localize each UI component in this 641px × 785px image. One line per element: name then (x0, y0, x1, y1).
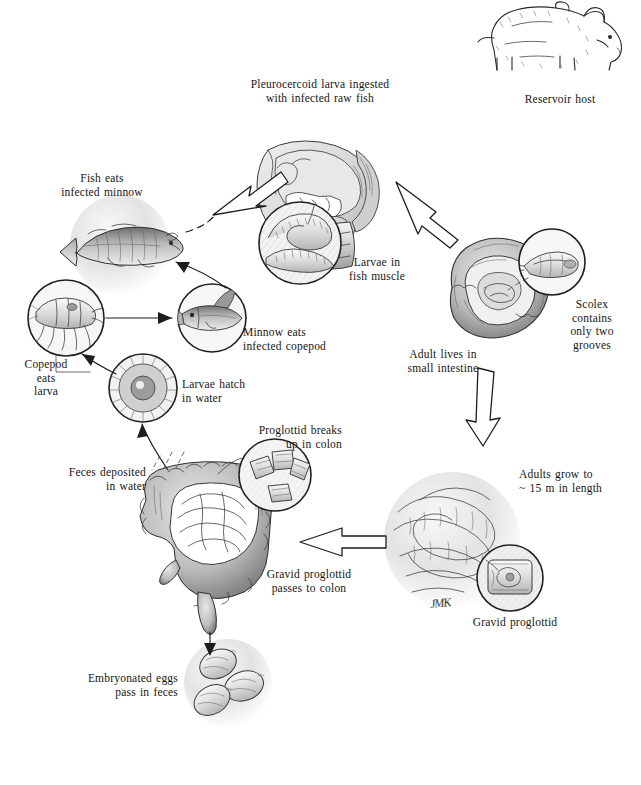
artist-signature: JMK (429, 595, 451, 612)
minnow-inset (166, 284, 246, 352)
label-larvae-fish-muscle: Larvae in fish muscle (322, 256, 432, 283)
life-cycle-diagram: Pleurocercoid larva ingested with infect… (0, 0, 641, 785)
gravid-proglottid-inset (477, 545, 543, 611)
label-gravid-proglottid: Gravid proglottid (452, 616, 578, 630)
arrow-intestine-to-adult (466, 368, 500, 446)
label-adult-small-intestine: Adult lives in small intestine (381, 348, 505, 375)
diagram-artwork (0, 0, 641, 785)
arrow-adult-to-colon (300, 528, 386, 556)
copepod-inset (24, 280, 108, 356)
arrow-human-to-intestine (396, 182, 458, 248)
label-adults-grow: Adults grow to ~ 15 m in length (519, 468, 641, 495)
large-fish-illustration (60, 195, 183, 295)
label-larvae-hatch: Larvae hatch in water (182, 378, 292, 405)
embryonated-eggs-illustration (184, 639, 272, 727)
label-fish-eats-minnow: Fish eats infected minnow (32, 172, 172, 199)
label-embryonated-eggs: Embryonated eggs pass in feces (48, 672, 178, 699)
label-proglottid-breaks: Proglottid breaks up in colon (216, 424, 342, 451)
label-minnow-eats-copepod: Minnow eats infected copepod (243, 326, 373, 353)
label-pleurocercoid: Pleurocercoid larva ingested with infect… (184, 78, 456, 105)
label-feces-deposited: Feces deposited in water (22, 466, 146, 493)
label-copepod-eats-larva: Copepod eats larva (6, 358, 86, 399)
coracidium-larva-inset (109, 354, 177, 422)
label-scolex: Scolex contains only two grooves (546, 298, 638, 352)
bear-illustration (478, 2, 622, 70)
label-gravid-passes: Gravid proglottid passes to colon (246, 568, 372, 595)
arrow-colon-to-water (142, 424, 168, 470)
label-reservoir-host: Reservoir host (485, 93, 635, 107)
